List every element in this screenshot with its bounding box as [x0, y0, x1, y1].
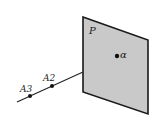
point-alpha [115, 54, 119, 58]
point-a2-label: A2 [42, 73, 55, 83]
point-a3 [28, 94, 32, 98]
point-a3-label: A3 [19, 84, 32, 94]
point-a2 [50, 84, 54, 88]
point-alpha-label: α [120, 49, 127, 60]
diagram-canvas: P α A3 A2 [0, 0, 163, 122]
plane-label: P [88, 25, 96, 36]
